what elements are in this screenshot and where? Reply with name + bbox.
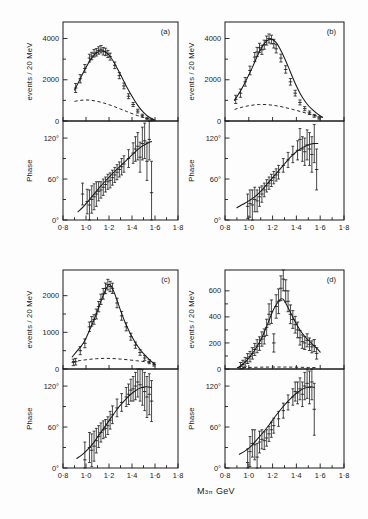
y-axis-label-phase: Phase — [25, 407, 34, 430]
x-ticklabel: 0·8 — [220, 471, 231, 480]
panel-letter: (b) — [327, 27, 337, 36]
x-ticklabel: 1·8 — [339, 223, 350, 232]
panel-b: 0200040000°60°120°0·81·01·21·41·61·8even… — [184, 14, 350, 246]
x-ticklabel: 1·0 — [243, 471, 254, 480]
y-ticklabel-top: 600 — [209, 286, 221, 295]
y-ticklabel-top: 0 — [55, 365, 59, 374]
fit-curve-solid — [72, 284, 155, 364]
y-ticklabel-phase: 60° — [48, 175, 59, 184]
x-ticklabel: 1·8 — [173, 223, 184, 232]
y-ticklabel-phase: 120° — [206, 382, 221, 391]
y-ticklabel-phase: 60° — [210, 423, 221, 432]
x-axis-title: M3π GeV — [197, 486, 235, 496]
x-ticklabel: 1·6 — [150, 471, 161, 480]
x-ticklabel: 0·8 — [58, 471, 69, 480]
phase-plot-frame — [63, 121, 178, 220]
background-curve-dashed — [72, 358, 156, 364]
y-axis-label-phase: Phase — [25, 159, 34, 182]
y-ticklabel-top: 0 — [217, 117, 221, 126]
x-ticklabel: 0·8 — [58, 223, 69, 232]
x-ticklabel: 0·8 — [220, 223, 231, 232]
fit-curve-solid — [75, 51, 156, 120]
y-ticklabel-top: 2000 — [43, 291, 59, 300]
y-ticklabel-top: 1000 — [43, 328, 59, 337]
phase-fit-curve — [239, 387, 314, 455]
panel-letter: (c) — [161, 275, 170, 284]
x-ticklabel: 1·2 — [267, 223, 278, 232]
panel-letter: (a) — [161, 27, 171, 36]
y-axis-label-phase: Phase — [187, 407, 196, 430]
x-ticklabel: 1·4 — [127, 471, 138, 480]
panel-letter: (d) — [327, 275, 337, 284]
data-points-phase — [246, 124, 318, 220]
figure-page: 0200040000°60°120°0·81·01·21·41·61·8even… — [0, 0, 368, 519]
y-ticklabel-top: 400 — [209, 312, 221, 321]
panel-d: 02004006000°60°120°0·81·01·21·41·61·8eve… — [184, 262, 350, 494]
data-points-phase — [81, 121, 153, 220]
y-ticklabel-top: 2000 — [205, 75, 221, 84]
y-ticklabel-phase: 120° — [206, 134, 221, 143]
x-axis-title-main: M — [197, 486, 205, 496]
x-ticklabel: 1·8 — [173, 471, 184, 480]
top-plot-frame — [63, 22, 178, 121]
y-ticklabel-phase: 120° — [44, 134, 59, 143]
phase-fit-curve — [237, 143, 318, 207]
y-ticklabel-top: 0 — [55, 117, 59, 126]
y-ticklabel-top: 2000 — [43, 75, 59, 84]
x-ticklabel: 1·0 — [81, 471, 92, 480]
y-axis-label-events: events / 20 MeV — [25, 290, 34, 349]
panel-grid: 0200040000°60°120°0·81·01·21·41·61·8even… — [0, 0, 368, 519]
top-plot-frame — [225, 270, 344, 369]
data-points-phase — [83, 369, 153, 468]
y-axis-label-events: events / 20 MeV — [25, 42, 34, 101]
x-ticklabel: 1·4 — [291, 471, 302, 480]
background-curve-dashed — [237, 367, 318, 368]
x-ticklabel: 1·6 — [315, 223, 326, 232]
x-ticklabel: 1·8 — [339, 471, 350, 480]
x-ticklabel: 1·2 — [267, 471, 278, 480]
x-ticklabel: 1·2 — [104, 223, 115, 232]
y-ticklabel-top: 200 — [209, 339, 221, 348]
x-ticklabel: 1·6 — [315, 471, 326, 480]
y-ticklabel-phase: 120° — [44, 382, 59, 391]
panel-c: 0100020000°60°120°0·81·01·21·41·61·8even… — [22, 262, 184, 494]
y-axis-label-phase: Phase — [187, 159, 196, 182]
y-axis-label-events: events / 20 MeV — [187, 42, 196, 101]
data-points-top — [239, 270, 319, 369]
y-axis-label-events: events / 20 MeV — [187, 290, 196, 349]
top-plot-frame — [225, 22, 344, 121]
y-ticklabel-phase: 60° — [210, 175, 221, 184]
x-ticklabel: 1·2 — [104, 471, 115, 480]
x-axis-title-unit: GeV — [216, 486, 235, 496]
y-ticklabel-top: 0 — [217, 365, 221, 374]
y-ticklabel-top: 4000 — [43, 34, 59, 43]
y-ticklabel-top: 4000 — [205, 34, 221, 43]
y-ticklabel-phase: 60° — [48, 423, 59, 432]
fit-curve-solid — [238, 299, 320, 368]
panel-a: 0200040000°60°120°0·81·01·21·41·61·8even… — [22, 14, 184, 246]
x-ticklabel: 1·0 — [81, 223, 92, 232]
x-axis-title-subscript: 3π — [205, 488, 213, 495]
phase-plot-frame — [225, 121, 344, 220]
x-ticklabel: 1·4 — [127, 223, 138, 232]
data-points-phase — [246, 369, 316, 468]
phase-plot-frame — [63, 369, 178, 468]
x-ticklabel: 1·0 — [243, 223, 254, 232]
x-ticklabel: 1·4 — [291, 223, 302, 232]
x-ticklabel: 1·6 — [150, 223, 161, 232]
